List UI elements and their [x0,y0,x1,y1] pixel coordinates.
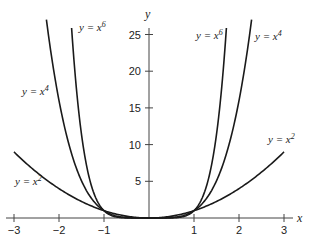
label-x6-left: y = x6 [78,20,106,33]
y-tick-label: 5 [135,175,141,187]
label-x6-right: y = x6 [195,28,223,41]
y-tick-label: 20 [129,65,141,77]
power-functions-chart: −3−2−1123 510152025 x y y = x6 y = x6 y … [0,0,311,242]
x-axis-label: x [296,211,303,225]
label-x4-right: y = x4 [254,29,282,42]
label-x2-left: y = x2 [14,174,42,187]
x-tick-label: 3 [281,224,287,236]
label-x4-left: y = x4 [21,84,49,97]
y-tick-label: 25 [129,29,141,41]
x-tick-label: −2 [53,224,66,236]
x-tick-label: −1 [98,224,111,236]
y-tick-label: 10 [129,139,141,151]
curve-labels: y = x6 y = x6 y = x4 y = x4 y = x2 y = x… [14,20,295,187]
x-tick-label: −3 [8,224,21,236]
x-tick-label: 2 [236,224,242,236]
label-x2-right: y = x2 [267,132,295,145]
x-tick-label: 1 [191,224,197,236]
y-tick-label: 15 [129,102,141,114]
y-axis-label: y [144,7,151,21]
